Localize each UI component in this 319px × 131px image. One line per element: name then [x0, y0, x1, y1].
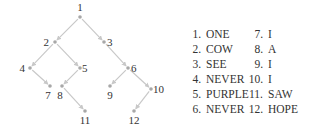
- tree-node: 8: [57, 84, 64, 101]
- legend-item: 8.A: [245, 42, 298, 57]
- tree-node: 1: [77, 1, 83, 19]
- legend-number: 10.: [245, 72, 263, 87]
- tree-node: 7: [45, 84, 52, 101]
- node-label: 12: [129, 114, 140, 126]
- legend-number: 7.: [245, 27, 263, 42]
- tree-node: 5: [78, 62, 88, 74]
- legend-number: 3.: [183, 57, 201, 72]
- legend-column-1: 1.ONE 2.COW 3.SEE 4.NEVER 5.PURPLE 6.NEV…: [183, 27, 249, 117]
- tree-edge: [64, 88, 83, 109]
- legend-number: 9.: [245, 57, 263, 72]
- legend-item: 2.COW: [183, 42, 249, 57]
- tree-node: 3: [102, 36, 113, 48]
- node-label: 6: [131, 62, 137, 74]
- tree-node: 12: [129, 109, 140, 126]
- legend-item: 9.I: [245, 57, 298, 72]
- tree-node: 10: [149, 83, 164, 95]
- tree-node: 9: [107, 84, 113, 101]
- legend-word: I: [268, 73, 272, 85]
- node-dot: [78, 15, 82, 19]
- legend-column-2: 7.I 8.A 9.I 10.I 11.SAW 12.HOPE: [245, 27, 298, 117]
- node-label: 5: [82, 62, 88, 74]
- legend-number: 2.: [183, 42, 201, 57]
- tree-diagram: 123456789101112: [0, 0, 175, 131]
- tree-nodes: 123456789101112: [20, 1, 165, 126]
- legend-item: 3.SEE: [183, 57, 249, 72]
- node-dot: [53, 40, 57, 44]
- legend-word: I: [268, 28, 272, 40]
- legend-word: HOPE: [268, 103, 298, 115]
- legend-number: 12.: [245, 102, 263, 117]
- legend-word: NEVER: [206, 73, 244, 85]
- node-label: 2: [44, 36, 50, 48]
- tree-node: 11: [80, 109, 91, 126]
- node-label: 4: [20, 62, 26, 74]
- tree-edge: [32, 70, 48, 84]
- legend-number: 1.: [183, 27, 201, 42]
- legend-word: PURPLE: [206, 88, 249, 100]
- legend-number: 8.: [245, 42, 263, 57]
- tree-edge: [64, 70, 78, 84]
- legend-word: ONE: [206, 28, 230, 40]
- tree-node: 4: [20, 62, 32, 74]
- legend-word: SAW: [268, 88, 293, 100]
- node-dot: [102, 40, 106, 44]
- legend-item: 10.I: [245, 72, 298, 87]
- legend-item: 12.HOPE: [245, 102, 298, 117]
- legend-number: 5.: [183, 87, 201, 102]
- legend-number: 4.: [183, 72, 201, 87]
- node-label: 8: [57, 89, 63, 101]
- legend-item: 4.NEVER: [183, 72, 249, 87]
- legend-item: 11.SAW: [245, 87, 298, 102]
- tree-edge: [82, 19, 102, 40]
- node-dot: [60, 84, 64, 88]
- tree-edge: [32, 44, 53, 66]
- tree-edge: [136, 91, 149, 108]
- node-label: 1: [77, 1, 83, 13]
- node-dot: [48, 84, 52, 88]
- node-dot: [83, 109, 87, 113]
- tree-node: 6: [126, 62, 137, 74]
- node-dot: [126, 66, 130, 70]
- node-dot: [108, 84, 112, 88]
- legend-number: 6.: [183, 102, 201, 117]
- node-label: 3: [107, 36, 113, 48]
- node-label: 9: [107, 89, 113, 101]
- legend-number: 11.: [245, 87, 263, 102]
- tree-edge: [112, 70, 126, 84]
- legend-item: 1.ONE: [183, 27, 249, 42]
- node-dot: [28, 66, 32, 70]
- node-label: 11: [80, 114, 91, 126]
- legend-word: NEVER: [206, 103, 244, 115]
- legend-word: COW: [206, 43, 233, 55]
- tree-edge: [57, 44, 78, 66]
- legend-item: 6.NEVER: [183, 102, 249, 117]
- legend-item: 5.PURPLE: [183, 87, 249, 102]
- node-label: 10: [153, 83, 165, 95]
- node-label: 7: [45, 89, 51, 101]
- tree-edge: [57, 19, 78, 40]
- legend-word: I: [268, 58, 272, 70]
- legend-word: SEE: [206, 58, 226, 70]
- legend-word: A: [268, 43, 276, 55]
- node-dot: [132, 109, 136, 113]
- legend-item: 7.I: [245, 27, 298, 42]
